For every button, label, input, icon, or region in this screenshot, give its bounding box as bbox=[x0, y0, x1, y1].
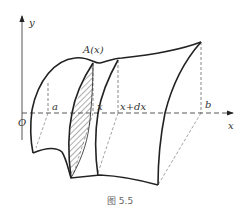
solid-cross-section-diagram: y x O A(x) a x x+dx b 图 5.5 bbox=[0, 0, 252, 217]
solid-top-edge bbox=[32, 42, 201, 110]
diag-b bbox=[158, 113, 201, 185]
diag-a bbox=[36, 113, 48, 148]
label-x: x bbox=[97, 101, 103, 112]
solid-right-end bbox=[158, 42, 201, 185]
diag-xdx bbox=[98, 113, 118, 173]
x-axis-label: x bbox=[228, 120, 234, 131]
label-x-plus-dx: x+dx bbox=[120, 101, 146, 112]
figure-caption: 图 5.5 bbox=[107, 196, 133, 206]
solid-left-end bbox=[31, 110, 33, 153]
label-b: b bbox=[205, 99, 211, 110]
section-xdx bbox=[96, 60, 118, 176]
origin-label: O bbox=[18, 117, 26, 128]
label-cross-section: A(x) bbox=[82, 44, 104, 55]
label-a: a bbox=[52, 101, 58, 112]
y-axis-label: y bbox=[28, 17, 35, 28]
cross-section-hatched bbox=[69, 63, 93, 175]
